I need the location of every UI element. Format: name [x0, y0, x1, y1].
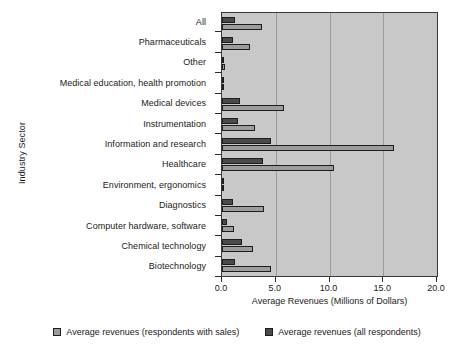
- bar-all-respondents: [222, 118, 238, 124]
- bar-respondents-with-sales: [222, 246, 253, 252]
- category-label: Information and research: [12, 134, 212, 154]
- bar-all-respondents: [222, 219, 227, 225]
- bar-respondents-with-sales: [222, 64, 225, 70]
- bar-all-respondents: [222, 77, 224, 83]
- x-tick-label: 10.0: [320, 283, 338, 293]
- bar-respondents-with-sales: [222, 125, 255, 131]
- bar-all-respondents: [222, 259, 235, 265]
- category-label: Medical education, health promotion: [12, 73, 212, 93]
- bar-group: [222, 256, 437, 276]
- category-label: All: [12, 12, 212, 32]
- bar-group: [222, 236, 437, 256]
- bar-respondents-with-sales: [222, 24, 262, 30]
- category-label: Other: [12, 53, 212, 73]
- bar-all-respondents: [222, 17, 235, 23]
- bar-all-respondents: [222, 98, 240, 104]
- bar-respondents-with-sales: [222, 44, 250, 50]
- x-axis-title: Average Revenues (Millions of Dollars): [221, 296, 438, 306]
- bar-group: [222, 215, 437, 235]
- bar-group: [222, 53, 437, 73]
- bar-respondents-with-sales: [222, 165, 334, 171]
- bar-group: [222, 33, 437, 53]
- bar-group: [222, 155, 437, 175]
- legend-swatch-icon: [265, 328, 273, 336]
- x-tick: [221, 277, 222, 282]
- bar-group: [222, 74, 437, 94]
- category-label: Healthcare: [12, 155, 212, 175]
- legend-swatch-icon: [53, 328, 61, 336]
- legend-label: Average revenues (all respondents): [278, 327, 420, 337]
- bar-all-respondents: [222, 158, 263, 164]
- bar-group: [222, 134, 437, 154]
- x-tick-label: 0.0: [215, 283, 228, 293]
- bar-rows: [222, 13, 437, 276]
- bar-group: [222, 114, 437, 134]
- bar-all-respondents: [222, 199, 233, 205]
- bar-group: [222, 175, 437, 195]
- bar-respondents-with-sales: [222, 105, 284, 111]
- bar-all-respondents: [222, 138, 271, 144]
- bar-group: [222, 195, 437, 215]
- x-tick: [436, 277, 437, 282]
- category-label: Environment, ergonomics: [12, 175, 212, 195]
- category-label: Computer hardware, software: [12, 216, 212, 236]
- x-tick: [329, 277, 330, 282]
- category-label: Chemical technology: [12, 236, 212, 256]
- x-axis-tick-labels: 0.05.010.015.020.0: [221, 283, 438, 295]
- legend-item: Average revenues (respondents with sales…: [53, 327, 239, 337]
- bar-respondents-with-sales: [222, 206, 264, 212]
- x-tick-label: 5.0: [268, 283, 281, 293]
- bar-respondents-with-sales: [222, 145, 394, 151]
- bar-respondents-with-sales: [222, 185, 224, 191]
- bar-respondents-with-sales: [222, 84, 224, 90]
- x-tick-label: 15.0: [373, 283, 391, 293]
- category-label: Pharmaceuticals: [12, 32, 212, 52]
- plot-area: [221, 12, 438, 277]
- bar-respondents-with-sales: [222, 266, 271, 272]
- bar-all-respondents: [222, 37, 233, 43]
- bar-chart-figure: Industry Sector AllPharmaceuticalsOtherM…: [0, 0, 474, 346]
- category-label: Medical devices: [12, 94, 212, 114]
- category-label: Biotechnology: [12, 257, 212, 277]
- bar-all-respondents: [222, 178, 224, 184]
- bar-respondents-with-sales: [222, 226, 234, 232]
- bar-all-respondents: [222, 239, 242, 245]
- legend-label: Average revenues (respondents with sales…: [66, 327, 239, 337]
- category-label: Diagnostics: [12, 196, 212, 216]
- bar-all-respondents: [222, 57, 224, 63]
- bar-group: [222, 94, 437, 114]
- x-tick: [275, 277, 276, 282]
- y-axis-category-labels: AllPharmaceuticalsOtherMedical education…: [12, 12, 212, 277]
- legend-item: Average revenues (all respondents): [265, 327, 420, 337]
- category-label: Instrumentation: [12, 114, 212, 134]
- bar-group: [222, 13, 437, 33]
- chart-legend: Average revenues (respondents with sales…: [0, 327, 474, 337]
- x-tick-label: 20.0: [427, 283, 445, 293]
- x-tick: [382, 277, 383, 282]
